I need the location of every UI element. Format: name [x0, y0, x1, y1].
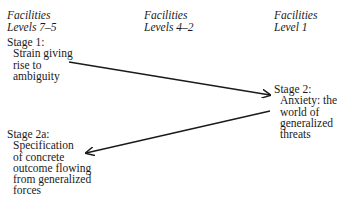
arrow-stage1-to-stage2	[69, 62, 270, 95]
arrow-layer	[0, 0, 345, 198]
arrow-stage2-to-stage2a	[86, 111, 270, 153]
